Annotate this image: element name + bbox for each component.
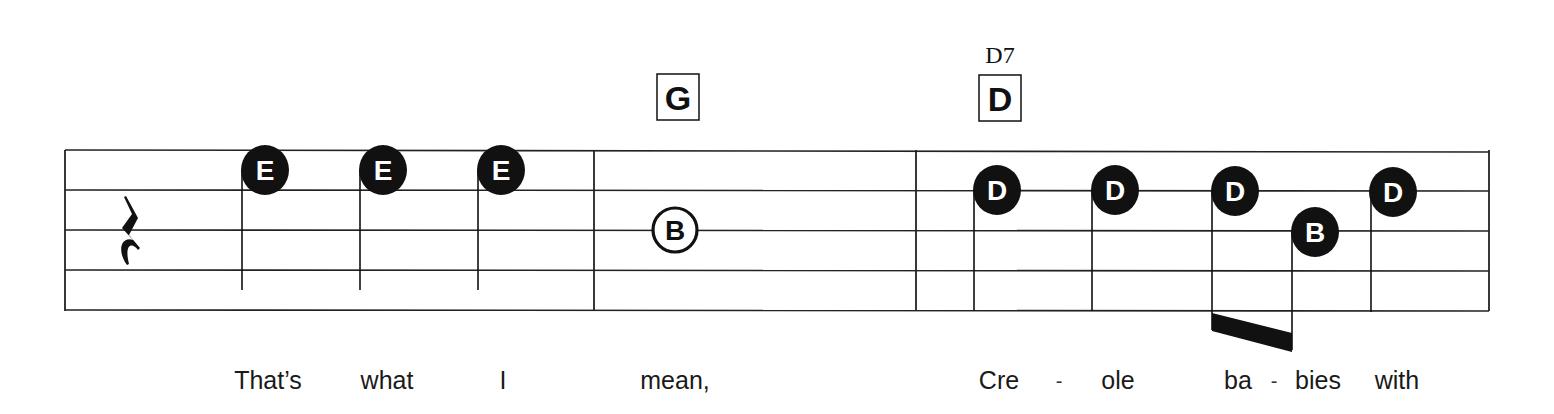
chord-symbols: GDD7 — [657, 42, 1021, 121]
note-letter: D — [987, 175, 1007, 206]
note-e: E — [477, 145, 525, 195]
lyric-syllable: ba — [1224, 366, 1252, 394]
lyric-syllable: That’s — [234, 366, 302, 394]
note-stems — [242, 170, 1371, 350]
beam — [1212, 313, 1292, 352]
note-letter: D — [1105, 175, 1125, 206]
music-score: GDD7 EEEBDDDBD That’swhatImean,Cre-oleba… — [0, 0, 1554, 414]
note-e: E — [359, 145, 407, 195]
chord-symbol-g: G — [657, 74, 699, 120]
chord-alt-label: D7 — [985, 42, 1014, 68]
note-d: D — [1091, 165, 1139, 215]
note-letter: E — [492, 155, 511, 186]
eighth-note-beam — [1212, 313, 1292, 352]
lyric-syllable: bies — [1295, 366, 1341, 394]
note-letter: B — [1305, 217, 1325, 248]
lyric-syllable: mean, — [640, 366, 709, 394]
lyric-hyphen: - — [1271, 370, 1278, 392]
lyric-syllable: Cre — [979, 366, 1019, 394]
chord-symbol-d: DD7 — [979, 42, 1021, 121]
lyric-syllable: ole — [1101, 366, 1134, 394]
lyric-hyphen: - — [1056, 370, 1063, 392]
lyric-syllable: what — [360, 366, 414, 394]
note-heads: EEEBDDDBD — [241, 145, 1417, 257]
staff-line — [65, 310, 1489, 311]
note-e: E — [241, 145, 289, 195]
note-letter: E — [374, 155, 393, 186]
note-b: B — [1291, 207, 1339, 257]
lyric-syllable: I — [500, 366, 507, 394]
note-d: D — [1211, 166, 1259, 216]
chord-label: D — [988, 80, 1013, 118]
staff-line — [65, 270, 1489, 271]
note-letter: D — [1383, 177, 1403, 208]
note-letter: D — [1225, 176, 1245, 207]
note-letter: B — [665, 215, 685, 246]
staff-line — [65, 230, 1489, 231]
lyrics-line: That’swhatImean,Cre-oleba-bieswith — [234, 366, 1419, 394]
chord-label: G — [665, 79, 691, 117]
lyric-syllable: with — [1374, 366, 1419, 394]
note-d: D — [973, 165, 1021, 215]
note-letter: E — [256, 155, 275, 186]
note-d: D — [1369, 167, 1417, 217]
note-b: B — [653, 208, 697, 252]
